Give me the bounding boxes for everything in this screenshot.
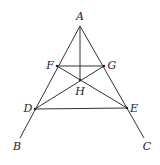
point-h bbox=[79, 79, 81, 81]
label-e: E bbox=[129, 102, 138, 115]
point-g bbox=[103, 65, 105, 67]
label-g: G bbox=[108, 59, 117, 72]
label-f: F bbox=[45, 59, 54, 72]
point-d bbox=[34, 108, 36, 110]
segment-ab bbox=[20, 26, 80, 138]
label-d: D bbox=[23, 102, 33, 115]
label-h: H bbox=[74, 85, 85, 98]
geometry-diagram: A F G H D E B C bbox=[0, 0, 160, 165]
label-a: A bbox=[75, 10, 84, 23]
point-e bbox=[126, 107, 128, 109]
segment-fe bbox=[57, 66, 127, 108]
segment-ac bbox=[80, 26, 144, 138]
label-b: B bbox=[12, 140, 21, 153]
point-f bbox=[56, 65, 58, 67]
label-c: C bbox=[143, 140, 152, 153]
segment-de bbox=[35, 108, 127, 109]
segments bbox=[20, 26, 144, 138]
